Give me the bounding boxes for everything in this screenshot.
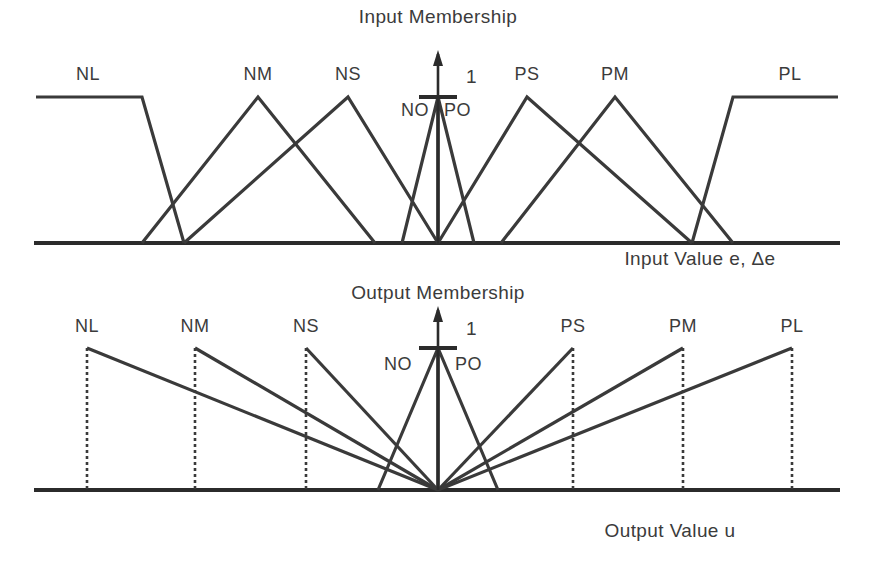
output-set-label-pm: PM [669,316,697,337]
output-axis-arrow-icon [433,306,443,322]
output-set-label-no: NO [384,354,412,375]
output-set-label-ns: NS [293,316,319,337]
input-mf-ns [184,97,438,243]
input-set-label-no: NO [401,100,429,121]
output-membership-panel: NL NM NS PS PM PL NO PO 1 Output Members… [0,280,869,562]
input-x-axis-title: Input Value e, Δe [624,248,775,270]
input-set-label-pl: PL [779,64,802,85]
input-set-label-pm: PM [601,64,629,85]
input-mf-ps [438,97,692,243]
input-membership-title: Input Membership [359,6,517,28]
input-set-label-nl: NL [76,64,100,85]
output-set-label-nl: NL [75,316,99,337]
input-set-label-po: PO [444,100,471,121]
input-set-label-nm: NM [244,64,273,85]
output-mf-ns [306,348,438,490]
output-mf-pl [438,348,792,490]
input-mf-nl [36,97,184,243]
input-set-label-ns: NS [335,64,361,85]
output-membership-title: Output Membership [351,282,525,304]
output-set-label-pl: PL [781,316,804,337]
input-membership-plot [0,0,869,280]
output-x-axis-title: Output Value u [605,520,736,542]
input-axis-arrow-icon [433,50,443,66]
output-set-label-nm: NM [181,316,210,337]
output-membership-plot [0,280,869,562]
input-set-label-ps: PS [515,64,540,85]
output-set-label-ps: PS [561,316,586,337]
input-membership-panel: NL NM NS PS PM PL NO PO 1 Input Membersh… [0,0,869,280]
output-set-label-po: PO [455,354,482,375]
fuzzy-membership-figure: NL NM NS PS PM PL NO PO 1 Input Membersh… [0,0,869,562]
output-unity-label: 1 [466,318,477,340]
input-unity-label: 1 [466,66,477,88]
